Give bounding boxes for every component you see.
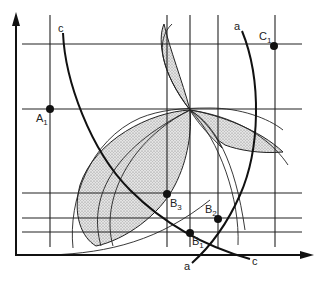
label-B3: B3 — [170, 197, 182, 212]
label-a-top: a — [234, 20, 241, 32]
label-a-bottom: a — [184, 260, 191, 272]
label-c-bottom: c — [252, 255, 258, 267]
point-A1 — [46, 105, 54, 113]
label-B2: B2 — [205, 203, 217, 218]
construction-diagram: c c a a A1 C1 B3 B2 B1 — [0, 0, 318, 282]
x-axis-arrow-icon — [300, 251, 314, 259]
shaded-lens-right — [190, 110, 283, 153]
label-A1: A1 — [36, 112, 48, 127]
label-B1: B1 — [192, 235, 204, 250]
y-axis-arrow-icon — [12, 12, 20, 26]
label-c-top: c — [58, 22, 64, 34]
shaded-regions — [77, 24, 283, 246]
label-C1: C1 — [259, 30, 272, 45]
